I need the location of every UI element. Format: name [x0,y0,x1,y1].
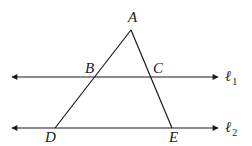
segment-AD [55,30,131,128]
label-E: E [168,129,178,145]
label-B: B [85,60,94,76]
label-l1: ℓ1 [225,68,237,87]
label-l2: ℓ2 [225,119,237,138]
label-A: A [127,9,138,25]
geometry-diagram: A B C D E ℓ1 ℓ2 [0,0,252,146]
segment-AE [131,30,172,128]
label-D: D [44,129,56,145]
label-C: C [153,60,164,76]
